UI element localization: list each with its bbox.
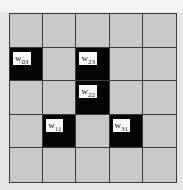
active-cell-r3-c3: w31 (110, 115, 143, 149)
grid-cell-r4-c0 (10, 148, 43, 182)
grid-cell-r0-c2 (76, 14, 109, 48)
weight-label: w11 (46, 119, 63, 132)
active-cell-r1-c0: w03 (10, 48, 43, 82)
grid-cell-r2-c3 (110, 81, 143, 115)
grid-cell-r0-c3 (110, 14, 143, 48)
grid-cell-r3-c0 (10, 115, 43, 149)
grid-cell-r2-c4 (143, 81, 176, 115)
background-band (0, 0, 183, 12)
active-cell-r3-c1: w11 (43, 115, 76, 149)
grid-cell-r4-c2 (76, 148, 109, 182)
grid-cell-r0-c4 (143, 14, 176, 48)
active-cell-r1-c2: w23 (76, 48, 109, 82)
grid-cell-r1-c4 (143, 48, 176, 82)
weight-subscript: 22 (88, 91, 95, 99)
grid-cell-r3-c2 (76, 115, 109, 149)
weight-subscript: 31 (121, 125, 128, 133)
grid-cell-r1-c3 (110, 48, 143, 82)
grid-cell-r1-c1 (43, 48, 76, 82)
weight-label: w22 (79, 85, 97, 98)
grid-cell-r0-c1 (43, 14, 76, 48)
weight-label: w31 (113, 119, 131, 132)
active-cell-r2-c2: w22 (76, 81, 109, 115)
weight-label: w03 (13, 52, 31, 65)
grid-cell-r4-c1 (43, 148, 76, 182)
weight-subscript: 03 (22, 58, 29, 66)
grid-cell-r4-c4 (143, 148, 176, 182)
grid-cell-r0-c0 (10, 14, 43, 48)
weight-label: w23 (79, 52, 97, 65)
weight-subscript: 11 (55, 125, 62, 133)
weight-subscript: 23 (88, 58, 95, 66)
grid-cell-r2-c0 (10, 81, 43, 115)
grid-cell-r4-c3 (110, 148, 143, 182)
grid-cell-r3-c4 (143, 115, 176, 149)
grid-cell-r2-c1 (43, 81, 76, 115)
weight-grid: w03w23w22w11w31 (9, 13, 177, 183)
